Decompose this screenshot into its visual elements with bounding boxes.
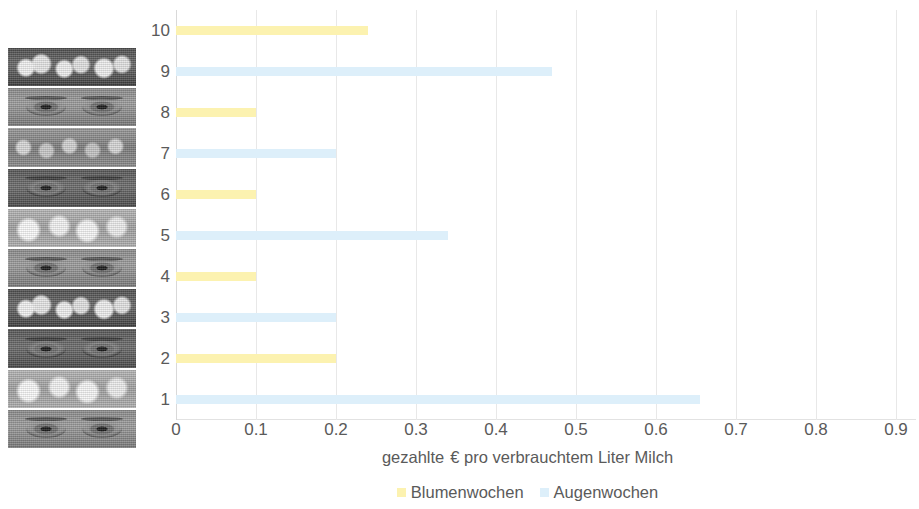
chart-row: 5 [176,215,916,256]
bar-augenwochen-7[interactable] [176,149,336,158]
x-tick-label: 0.9 [884,420,908,440]
bar-blumenwochen-10[interactable] [176,26,368,35]
photo-grain [8,410,136,448]
photo-grain [8,128,136,166]
x-tick-label: 0.5 [564,420,588,440]
x-tick-label: 0.1 [244,420,268,440]
photo-band-eyes [8,329,136,367]
chart-row: 6 [176,174,916,215]
bar-blumenwochen-2[interactable] [176,354,336,363]
bar-augenwochen-9[interactable] [176,67,552,76]
plot-area: 10987654321 [176,10,916,420]
legend-item[interactable]: Augenwochen [540,483,659,502]
y-tick-label: 10 [136,22,170,39]
bar-augenwochen-5[interactable] [176,231,448,240]
x-tick-label: 0.8 [804,420,828,440]
photo-grain [8,48,136,86]
x-tick-labels: 00.10.20.30.40.50.60.70.80.9 [176,420,916,444]
y-tick-label: 7 [136,145,170,162]
photo-grain [8,88,136,126]
chart-row: 4 [176,256,916,297]
photo-grain [8,370,136,408]
x-tick-label: 0.7 [724,420,748,440]
bar-blumenwochen-4[interactable] [176,272,256,281]
bar-chart: 10987654321 00.10.20.30.40.50.60.70.80.9… [136,0,919,509]
legend-item[interactable]: Blumenwochen [397,483,524,502]
photo-grain [8,329,136,367]
photo-band-eyes [8,410,136,448]
photo-band-flowers [8,370,136,408]
chart-row: 9 [176,51,916,92]
y-tick-label: 3 [136,309,170,326]
chart-row: 7 [176,133,916,174]
bar-blumenwochen-6[interactable] [176,190,256,199]
y-tick-label: 1 [136,391,170,408]
photo-grain [8,289,136,327]
y-tick-label: 8 [136,104,170,121]
y-tick-label: 2 [136,350,170,367]
y-tick-label: 6 [136,186,170,203]
photo-band-flowers [8,209,136,247]
photo-strip [8,48,136,448]
bar-blumenwochen-8[interactable] [176,108,256,117]
photo-band-eyes [8,169,136,207]
photo-grain [8,209,136,247]
chart-row: 8 [176,92,916,133]
photo-grain [8,169,136,207]
chart-page: 10987654321 00.10.20.30.40.50.60.70.80.9… [0,0,919,509]
x-tick-label: 0.3 [404,420,428,440]
chart-row: 3 [176,297,916,338]
legend-swatch-icon [397,488,406,497]
x-axis-title-part2: € pro verbrauchtem Liter Milch [450,448,673,466]
chart-row: 10 [176,10,916,51]
photo-band-flowers [8,48,136,86]
bar-augenwochen-3[interactable] [176,313,336,322]
legend-label: Augenwochen [554,483,659,502]
x-tick-label: 0.2 [324,420,348,440]
chart-row: 1 [176,379,916,420]
photo-band-flowers [8,289,136,327]
x-axis-title: gezahlte€ pro verbrauchtem Liter Milch [136,448,919,467]
photo-band-eyes [8,249,136,287]
legend-swatch-icon [540,488,549,497]
legend-label: Blumenwochen [411,483,524,502]
x-axis-title-part1: gezahlte [382,448,444,466]
chart-legend: BlumenwochenAugenwochen [136,483,919,502]
bar-augenwochen-1[interactable] [176,395,700,404]
x-tick-label: 0 [171,420,180,440]
x-tick-label: 0.4 [484,420,508,440]
y-tick-label: 4 [136,268,170,285]
photo-band-eyes [8,88,136,126]
x-tick-label: 0.6 [644,420,668,440]
photo-band-flowers [8,128,136,166]
chart-row: 2 [176,338,916,379]
y-tick-label: 9 [136,63,170,80]
y-tick-label: 5 [136,227,170,244]
photo-grain [8,249,136,287]
